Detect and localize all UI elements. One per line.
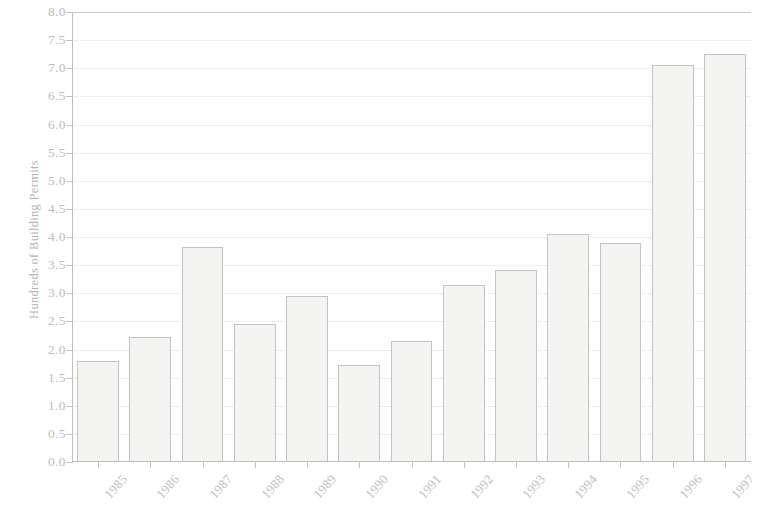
y-axis-tick-label: 4.0	[26, 230, 66, 244]
x-axis-tick-mark	[359, 462, 360, 468]
y-axis-tick-mark	[66, 378, 73, 379]
x-axis-tick-label: 1993	[520, 472, 548, 501]
x-axis-tick-label: 1985	[102, 472, 130, 501]
y-axis-tick-mark	[66, 40, 73, 41]
x-axis-tick-label: 1990	[363, 472, 391, 501]
x-axis-tick-mark	[307, 462, 308, 468]
y-axis-tick-mark	[66, 265, 73, 266]
x-axis-tick-label: 1996	[676, 472, 704, 501]
x-axis-tick-mark	[150, 462, 151, 468]
y-axis-tick-mark	[66, 350, 73, 351]
plot-area	[72, 12, 751, 462]
bar	[129, 337, 171, 462]
bar	[391, 341, 433, 462]
y-axis-tick-mark	[66, 209, 73, 210]
x-axis-tick-label: 1995	[624, 472, 652, 501]
y-axis-tick-mark	[66, 125, 73, 126]
y-axis-tick-mark	[66, 68, 73, 69]
x-axis-tick-label: 1986	[154, 472, 182, 501]
bars-layer	[72, 12, 751, 462]
y-axis-tick-mark	[66, 153, 73, 154]
y-axis-tick-mark	[66, 181, 73, 182]
y-axis-tick-label: 3.5	[26, 258, 66, 272]
x-axis-tick-label: 1992	[468, 472, 496, 501]
y-axis-tick-label: 7.0	[26, 62, 66, 76]
x-axis-tick-label: 1991	[415, 472, 443, 501]
y-axis-tick-label: 0.5	[26, 427, 66, 441]
y-axis-tick-mark	[66, 321, 73, 322]
y-axis-tick-label: 2.5	[26, 315, 66, 329]
x-axis-tick-label: 1987	[206, 472, 234, 501]
y-axis-tick-label: 6.5	[26, 90, 66, 104]
bar	[495, 270, 537, 462]
y-axis-tick-label: 4.5	[26, 202, 66, 216]
bar	[286, 296, 328, 462]
y-axis-tick-label: 1.5	[26, 371, 66, 385]
y-axis-tick-label: 0.0	[26, 455, 66, 469]
y-axis-tick-label: 2.0	[26, 343, 66, 357]
x-axis-tick-mark	[516, 462, 517, 468]
x-axis-tick-label: 1989	[311, 472, 339, 501]
bar	[600, 243, 642, 462]
x-axis-tick-label: 1988	[259, 472, 287, 501]
bar	[338, 365, 380, 462]
bar	[182, 247, 224, 462]
y-axis-tick-label: 3.0	[26, 287, 66, 301]
y-axis-tick-label: 5.0	[26, 174, 66, 188]
y-axis-tick-labels: 0.00.51.01.52.02.53.03.54.04.55.05.56.06…	[26, 0, 66, 508]
y-axis-tick-mark	[66, 96, 73, 97]
x-axis-tick-mark	[203, 462, 204, 468]
bar-chart: Hundreds of Building Permits 0.00.51.01.…	[0, 0, 761, 508]
y-axis-tick-mark	[66, 434, 73, 435]
x-axis-tick-mark	[725, 462, 726, 468]
x-axis-tick-mark	[255, 462, 256, 468]
x-axis-tick-mark	[412, 462, 413, 468]
y-axis-tick-label: 6.0	[26, 118, 66, 132]
y-axis-tick-label: 5.5	[26, 146, 66, 160]
bar	[652, 65, 694, 462]
x-axis-tick-mark	[620, 462, 621, 468]
y-axis-tick-mark	[66, 293, 73, 294]
x-axis-tick-mark	[673, 462, 674, 468]
bar	[77, 361, 119, 462]
x-axis-tick-labels: 1985198619871988198919901991199219931994…	[72, 462, 751, 508]
bar	[704, 54, 746, 462]
y-axis-tick-label: 1.0	[26, 399, 66, 413]
x-axis-tick-mark	[98, 462, 99, 468]
x-axis-tick-label: 1994	[572, 472, 600, 501]
y-axis-tick-mark	[66, 406, 73, 407]
x-axis-tick-mark	[464, 462, 465, 468]
y-axis-tick-label: 7.5	[26, 33, 66, 47]
bar	[443, 285, 485, 462]
y-axis-tick-label: 8.0	[26, 5, 66, 19]
y-axis-tick-mark	[66, 237, 73, 238]
x-axis-tick-mark	[568, 462, 569, 468]
x-axis-tick-label: 1997	[729, 472, 757, 501]
bar	[234, 324, 276, 462]
y-axis-tick-mark	[66, 12, 73, 13]
bar	[547, 234, 589, 462]
